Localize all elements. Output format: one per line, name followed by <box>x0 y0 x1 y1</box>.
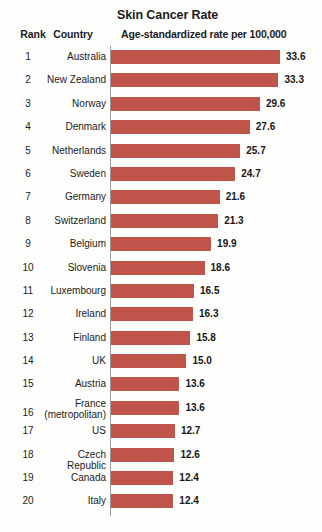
bar <box>111 401 179 415</box>
table-row: 15Austria13.6 <box>0 373 322 396</box>
country-label: Netherlands <box>36 145 106 157</box>
country-label: Denmark <box>36 121 106 133</box>
bar <box>111 237 211 251</box>
table-row: 10Slovenia18.6 <box>0 257 322 280</box>
bar-value-label: 15.0 <box>192 355 211 366</box>
country-label: Switzerland <box>36 215 106 227</box>
country-label-line2: (metropolitan) <box>36 409 106 421</box>
country-label: Sweden <box>36 168 106 180</box>
table-row: 7Germany21.6 <box>0 186 322 209</box>
bar <box>111 73 278 87</box>
country-label-line1: France <box>36 398 106 410</box>
bar <box>111 261 205 275</box>
bar <box>111 190 220 204</box>
bar-value-label: 27.6 <box>256 121 275 132</box>
table-row: 20Italy12.4 <box>0 490 322 513</box>
table-row: 3Norway29.6 <box>0 93 322 116</box>
skin-cancer-rate-chart: Skin Cancer Rate Age-standardized rate p… <box>0 0 322 532</box>
table-row: 17US12.7 <box>0 420 322 443</box>
bar-value-label: 24.7 <box>241 168 260 179</box>
table-row: 16France(metropolitan)13.6 <box>0 397 322 420</box>
bar-value-label: 15.8 <box>196 332 215 343</box>
country-label: Norway <box>36 98 106 110</box>
country-label: Germany <box>36 191 106 203</box>
table-row: 2New Zealand33.3 <box>0 69 322 92</box>
bar-rows-container: 1Australia33.62New Zealand33.33Norway29.… <box>0 46 322 514</box>
bar-value-label: 21.6 <box>226 191 245 202</box>
bar-value-label: 13.6 <box>185 402 204 413</box>
bar-value-label: 16.3 <box>199 308 218 319</box>
bar <box>111 494 173 508</box>
bar <box>111 167 235 181</box>
bar-value-label: 16.5 <box>200 285 219 296</box>
table-row: 8Switzerland21.3 <box>0 210 322 233</box>
table-row: 5Netherlands25.7 <box>0 140 322 163</box>
column-header-country: Country <box>40 28 106 40</box>
bar <box>111 448 174 462</box>
table-row: 12Ireland16.3 <box>0 303 322 326</box>
bar-value-label: 12.7 <box>181 425 200 436</box>
bar <box>111 214 218 228</box>
country-label: Belgium <box>36 238 106 250</box>
bar-value-label: 33.6 <box>286 51 305 62</box>
bar <box>111 424 175 438</box>
bar-value-label: 12.4 <box>179 472 198 483</box>
table-row: 14UK15.0 <box>0 350 322 373</box>
country-label: New Zealand <box>36 74 106 86</box>
bar <box>111 354 186 368</box>
bar <box>111 97 260 111</box>
country-label: Canada <box>36 472 106 484</box>
bar-value-label: 12.6 <box>180 449 199 460</box>
table-row: 6Sweden24.7 <box>0 163 322 186</box>
bar-value-label: 12.4 <box>179 495 198 506</box>
bar-value-label: 13.6 <box>185 378 204 389</box>
bar-value-label: 19.9 <box>217 238 236 249</box>
bar-value-label: 21.3 <box>224 215 243 226</box>
country-label: US <box>36 425 106 437</box>
bar-value-label: 29.6 <box>266 98 285 109</box>
table-row: 9Belgium19.9 <box>0 233 322 256</box>
country-label: France(metropolitan) <box>36 398 106 421</box>
table-row: 11Luxembourg16.5 <box>0 280 322 303</box>
country-label: Luxembourg <box>36 285 106 297</box>
country-label: Australia <box>36 51 106 63</box>
chart-subtitle: Age-standardized rate per 100,000 <box>121 28 286 40</box>
country-label: Italy <box>36 495 106 507</box>
country-label: Slovenia <box>36 262 106 274</box>
bar <box>111 471 173 485</box>
bar <box>111 120 250 134</box>
table-row: 1Australia33.6 <box>0 46 322 69</box>
table-row: 13Finland15.8 <box>0 327 322 350</box>
bar <box>111 307 193 321</box>
chart-title: Skin Cancer Rate <box>117 8 218 22</box>
bar <box>111 284 194 298</box>
country-label: UK <box>36 355 106 367</box>
bar <box>111 377 179 391</box>
bar <box>111 331 190 345</box>
table-row: 18Czech Republic12.6 <box>0 444 322 467</box>
bar-value-label: 18.6 <box>211 262 230 273</box>
bar <box>111 144 240 158</box>
country-label: Ireland <box>36 308 106 320</box>
country-label: Austria <box>36 378 106 390</box>
country-label: Finland <box>36 332 106 344</box>
bar <box>111 50 280 64</box>
bar-value-label: 25.7 <box>246 145 265 156</box>
table-row: 4Denmark27.6 <box>0 116 322 139</box>
bar-value-label: 33.3 <box>284 74 303 85</box>
table-row: 19Canada12.4 <box>0 467 322 490</box>
